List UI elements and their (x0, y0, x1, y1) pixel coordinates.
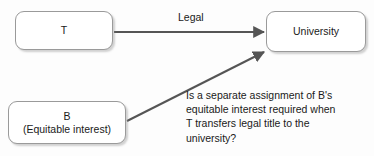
node-t: T (15, 11, 113, 50)
node-b: B (Equitable interest) (8, 101, 126, 144)
node-b-label-secondary: (Equitable interest) (23, 123, 111, 136)
node-university-label: University (293, 25, 339, 38)
question-line-4: university? (186, 131, 374, 145)
question-line-2: equitable interest required when (186, 102, 374, 116)
node-t-label: T (61, 24, 67, 37)
question-annotation: Is a separate assignment of B's equitabl… (186, 88, 374, 145)
edge-label-legal: Legal (178, 11, 204, 24)
diagram-canvas: T University B (Equitable interest) Lega… (0, 0, 374, 156)
node-university: University (266, 11, 366, 52)
question-line-3: T transfers legal title to the (186, 116, 374, 130)
node-b-label-primary: B (63, 110, 70, 123)
question-line-1: Is a separate assignment of B's (186, 88, 374, 102)
